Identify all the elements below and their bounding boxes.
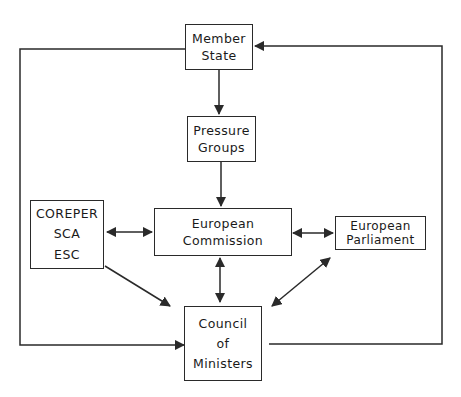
- node-label: Ministers: [193, 354, 253, 374]
- loop-council-to-member-state: [255, 46, 442, 344]
- arrow-coreper-to-council: [105, 266, 170, 306]
- node-label: of: [217, 334, 230, 354]
- node-label: European: [192, 215, 255, 232]
- node-label: European: [350, 219, 410, 233]
- node-label: Pressure: [193, 122, 250, 139]
- arrow-council-parliament: [272, 258, 330, 306]
- node-label: Member: [192, 30, 246, 47]
- node-label: COREPER: [36, 207, 98, 221]
- node-label: ESC: [54, 248, 80, 262]
- node-label: Groups: [198, 139, 245, 156]
- node-label: Commission: [183, 232, 263, 249]
- node-european-commission: European Commission: [154, 208, 292, 256]
- node-coreper-sca-esc: COREPER SCA ESC: [30, 200, 104, 269]
- eu-policy-flow-diagram: Member State Pressure Groups COREPER SCA…: [0, 0, 461, 397]
- node-label: Parliament: [346, 233, 414, 247]
- node-member-state: Member State: [185, 24, 253, 70]
- node-european-parliament: European Parliament: [335, 216, 426, 250]
- node-pressure-groups: Pressure Groups: [187, 116, 256, 162]
- node-label: Council: [199, 314, 248, 334]
- node-council-of-ministers: Council of Ministers: [184, 306, 262, 381]
- node-label: State: [201, 47, 236, 64]
- node-label: SCA: [54, 227, 80, 241]
